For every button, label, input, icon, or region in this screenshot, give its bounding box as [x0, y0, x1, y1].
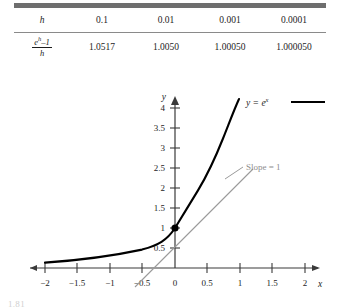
slope-annotation: Slope = 1 — [246, 162, 281, 172]
slope-leader-line — [225, 167, 243, 179]
minus-one: –1 — [41, 37, 50, 47]
exponential-curve-path — [45, 99, 239, 263]
table-row: h 0.1 0.01 0.001 0.0001 — [14, 8, 326, 33]
legend-label-text: y = e — [245, 98, 266, 108]
table-header-cell: 0.01 — [134, 8, 198, 33]
data-table-block: h 0.1 0.01 0.001 0.0001 eh–1 h 1.0517 1.… — [14, 3, 326, 59]
y-axis-arrow-icon — [171, 96, 179, 105]
y-tick-label: 3.5 — [154, 123, 166, 133]
y-tick-label: 2.5 — [154, 163, 166, 173]
table-header-cell: 0.0001 — [262, 8, 326, 33]
x-tick-label: −1 — [105, 278, 115, 288]
legend: y = ex — [245, 96, 325, 108]
table-row: eh–1 h 1.0517 1.0050 1.00050 1.000050 — [14, 33, 326, 60]
figure-caption: 1.81 — [8, 299, 25, 308]
values-table: h 0.1 0.01 0.001 0.0001 eh–1 h 1.0517 1.… — [14, 8, 326, 59]
table-value-cell: 1.0517 — [70, 33, 134, 60]
fraction: eh–1 h — [32, 36, 52, 58]
tangency-point-marker — [171, 224, 178, 231]
y-tick-label: 3 — [161, 143, 166, 153]
y-tick-label: 2 — [161, 183, 166, 193]
x-tick-label: 0 — [173, 278, 178, 288]
exponential-graph: −2 −1.5 −1 −0.5 0 0.5 1 1.5 2 x 0.5 1 1.… — [0, 66, 340, 301]
graph-svg: −2 −1.5 −1 −0.5 0 0.5 1 1.5 2 x 0.5 1 1.… — [0, 66, 340, 301]
table-value-cell: 1.000050 — [262, 33, 326, 60]
x-tick-label: 0.5 — [201, 278, 213, 288]
y-tick-label: 1 — [161, 223, 166, 233]
x-tick-label: −1.5 — [69, 278, 86, 288]
h-symbol: h — [40, 15, 45, 25]
fraction-denominator: h — [32, 48, 52, 58]
table-value-cell: 1.0050 — [134, 33, 198, 60]
table-header-cell: 0.1 — [70, 8, 134, 33]
tangent-line — [135, 169, 253, 287]
x-axis-right-arrow-icon — [312, 265, 320, 271]
x-axis-left-arrow-icon — [30, 265, 37, 271]
x-tick-label: 1 — [238, 278, 243, 288]
table-value-cell: 1.00050 — [198, 33, 262, 60]
x-tick-label: 1.5 — [266, 278, 278, 288]
x-tick-label: 2 — [303, 278, 308, 288]
x-axis-label: x — [317, 279, 323, 289]
legend-label: y = ex — [245, 96, 269, 108]
table-row-label-expression: eh–1 h — [14, 33, 70, 60]
y-tick-label: 1.5 — [154, 203, 166, 213]
legend-label-exponent: x — [265, 96, 269, 103]
x-tick-labels-group: −2 −1.5 −1 −0.5 0 0.5 1 1.5 2 x — [40, 278, 323, 289]
y-tick-labels-group: 0.5 1 1.5 2 2.5 3 3.5 4 y — [154, 92, 167, 253]
y-axis-label: y — [161, 92, 167, 102]
x-tick-label: −2 — [40, 278, 50, 288]
fraction-numerator: eh–1 — [32, 36, 52, 48]
y-tick-label: 4 — [161, 103, 166, 113]
table-header-cell: 0.001 — [198, 8, 262, 33]
axes-group — [30, 96, 320, 271]
table-header-label: h — [14, 8, 70, 33]
